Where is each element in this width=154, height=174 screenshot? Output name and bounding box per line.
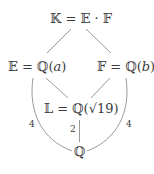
node-middle-L: 𝕃 = ℚ(√19) xyxy=(44,102,119,116)
node-bottom-Q: ℚ xyxy=(74,145,85,159)
node-right-F: 𝔽 = ℚ(𝑏) xyxy=(97,60,154,74)
edge-label-left-4: 4 xyxy=(29,119,35,129)
edge-label-middle-2: 2 xyxy=(70,124,76,134)
edge-right-middle xyxy=(91,78,110,98)
edge-top-left xyxy=(47,29,71,53)
edge-left-middle xyxy=(46,78,68,98)
node-left-E: 𝔼 = ℚ(𝑎) xyxy=(8,60,66,74)
node-top-K: 𝕂 = 𝔼 · 𝔽 xyxy=(50,12,112,26)
edge-label-right-4: 4 xyxy=(126,119,132,129)
edge-top-right xyxy=(86,29,111,53)
